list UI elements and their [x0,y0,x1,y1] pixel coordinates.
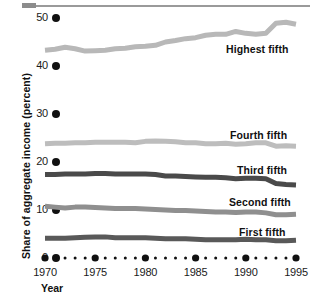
x-axis-major-dot [242,254,249,261]
x-axis-minor-dot [154,257,157,260]
x-axis-minor-dot [264,257,267,260]
x-axis-minor-dot [124,257,127,260]
x-axis-major-dot [92,254,99,261]
x-axis-minor-dot [54,257,57,260]
x-axis-dotted-line [41,254,299,261]
x-axis-major-dot [142,254,149,261]
x-tick-label-1995: 1995 [276,266,310,278]
x-tick-label-1975: 1975 [75,266,115,278]
series-label-second-fifth: Second fifth [229,196,291,208]
x-axis-major-dot [41,254,48,261]
x-axis-minor-dot [214,257,217,260]
x-axis-minor-dot [284,257,287,260]
x-axis-major-dot [292,254,299,261]
x-axis-minor-dot [234,257,237,260]
income-share-chart: Share of aggregate income (percent) 0102… [0,0,310,299]
x-axis-major-dot [192,254,199,261]
x-axis-minor-dot [174,257,177,260]
x-axis-minor-dot [74,257,77,260]
x-tick-label-1985: 1985 [176,266,216,278]
series-label-third-fifth: Third fifth [237,164,287,176]
x-axis-minor-dot [134,257,137,260]
series-line-fourth-fifth [45,141,296,146]
x-axis-minor-dot [224,257,227,260]
x-axis-minor-dot [114,257,117,260]
x-tick-label-1970: 1970 [25,266,65,278]
x-axis-minor-dot [184,257,187,260]
x-tick-label-1990: 1990 [226,266,266,278]
series-label-first-fifth: First fifth [239,226,286,238]
x-axis-minor-dot [104,257,107,260]
x-axis-minor-dot [204,257,207,260]
x-axis-minor-dot [274,257,277,260]
x-axis-minor-dot [164,257,167,260]
x-axis-minor-dot [64,257,67,260]
series-label-highest-fifth: Highest fifth [226,43,289,55]
x-axis-minor-dot [254,257,257,260]
x-tick-label-1980: 1980 [125,266,165,278]
x-axis-title: Year [41,282,63,294]
series-label-fourth-fifth: Fourth fifth [230,129,287,141]
x-axis-minor-dot [84,257,87,260]
